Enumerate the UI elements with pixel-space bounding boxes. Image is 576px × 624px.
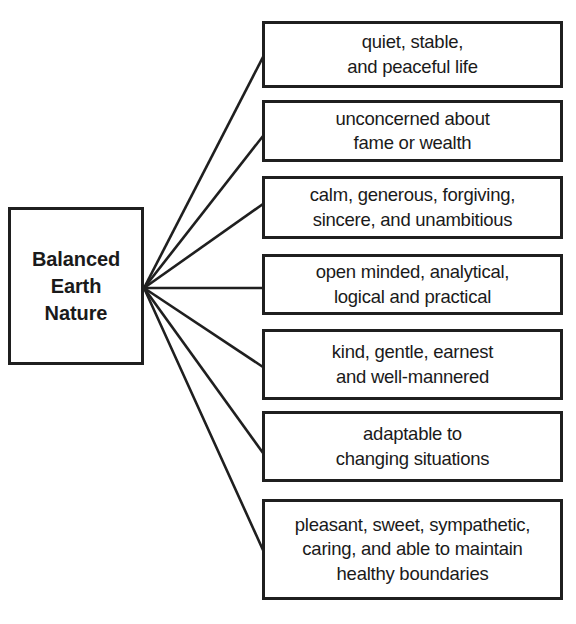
leaf-node-5-label: kind, gentle, earnest and well-mannered xyxy=(332,340,493,389)
connector-line-2 xyxy=(144,136,263,288)
diagram-canvas: Balanced Earth Nature quiet, stable, and… xyxy=(0,0,576,624)
leaf-node-3-label: calm, generous, forgiving, sincere, and … xyxy=(310,183,515,232)
leaf-node-6[interactable]: adaptable to changing situations xyxy=(262,411,563,482)
leaf-node-5[interactable]: kind, gentle, earnest and well-mannered xyxy=(262,329,563,400)
leaf-node-4[interactable]: open minded, analytical, logical and pra… xyxy=(262,254,563,315)
connector-line-1 xyxy=(144,57,263,288)
connector-line-3 xyxy=(144,204,263,288)
leaf-node-2[interactable]: unconcerned about fame or wealth xyxy=(262,100,563,162)
leaf-node-1[interactable]: quiet, stable, and peaceful life xyxy=(262,21,563,88)
leaf-node-6-label: adaptable to changing situations xyxy=(336,422,490,471)
connector-line-6 xyxy=(144,288,263,453)
leaf-node-3[interactable]: calm, generous, forgiving, sincere, and … xyxy=(262,176,563,239)
root-node-label: Balanced Earth Nature xyxy=(32,246,120,327)
leaf-node-7[interactable]: pleasant, sweet, sympathetic, caring, an… xyxy=(262,499,563,600)
root-node[interactable]: Balanced Earth Nature xyxy=(8,207,144,365)
leaf-node-1-label: quiet, stable, and peaceful life xyxy=(347,30,478,79)
leaf-node-2-label: unconcerned about fame or wealth xyxy=(335,107,489,156)
leaf-node-7-label: pleasant, sweet, sympathetic, caring, an… xyxy=(295,513,530,587)
leaf-node-4-label: open minded, analytical, logical and pra… xyxy=(316,260,510,309)
